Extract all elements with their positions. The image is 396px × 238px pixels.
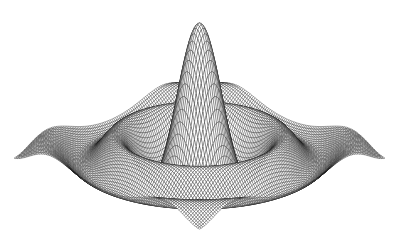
wireframe-surface-canvas xyxy=(0,0,396,238)
surface-plot-figure xyxy=(0,0,396,238)
